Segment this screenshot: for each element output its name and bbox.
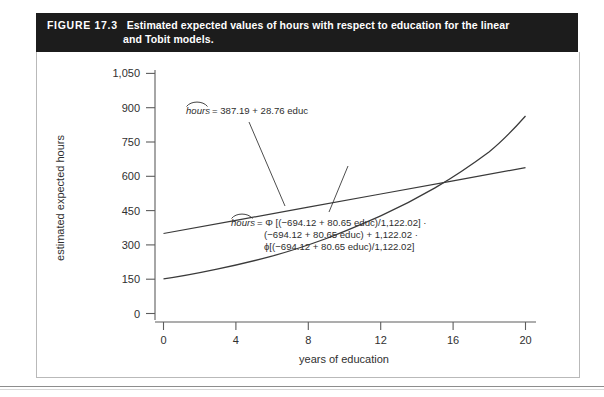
x-tick-label-12: 12 (375, 334, 387, 346)
y-tick-label-150: 150 (122, 273, 140, 285)
y-axis-ticks (146, 73, 155, 313)
figure-container: FIGURE 17.3Estimated expected values of … (0, 0, 604, 397)
x-axis-tick-labels: 0 4 8 12 16 20 (160, 334, 531, 346)
x-tick-label-20: 20 (519, 334, 531, 346)
x-tick-label-0: 0 (160, 334, 166, 346)
y-tick-label-900: 900 (122, 102, 140, 114)
figure-title-line-1: Estimated expected values of hours with … (127, 19, 510, 31)
chart-plot-area: 1,050 900 750 600 450 300 150 0 0 4 8 12… (36, 52, 580, 378)
linear-equation-lhs-text: hours (186, 105, 210, 116)
tobit-equation-line-1: = Φ [(−694.12 + 80.65 educ)/1,122.02] · (257, 217, 427, 228)
y-tick-label-450: 450 (122, 205, 140, 217)
figure-header-bar: FIGURE 17.3Estimated expected values of … (36, 13, 578, 52)
tobit-equation-line-3: ϕ[(−694.12 + 80.65 educ)/1,122.02] (264, 241, 414, 252)
y-tick-label-1050: 1,050 (112, 67, 140, 79)
linear-equation-rhs: = 387.19 + 28.76 educ (212, 105, 308, 116)
linear-equation-annotation: hours = 387.19 + 28.76 educ (186, 102, 308, 116)
tobit-model-curve (164, 116, 526, 279)
x-axis-ticks (164, 322, 526, 330)
tobit-equation-line-2: (−694.12 + 80.65 educ) + 1,122.02 · (264, 229, 418, 240)
figure-bottom-rule (0, 386, 604, 387)
y-axis-title: estimated expected hours (54, 135, 66, 261)
x-tick-label-8: 8 (305, 334, 311, 346)
linear-equation-leader-line (249, 122, 285, 206)
figure-title-line-2: and Tobit models. (47, 32, 568, 46)
linear-equation-rhs-text: = 387.19 + 28.76 educ (212, 105, 308, 116)
x-tick-label-4: 4 (233, 334, 239, 346)
x-axis-title: years of education (299, 353, 389, 365)
figure-number-label: FIGURE 17.3 (47, 19, 118, 31)
tobit-equation-lhs-text: hours (231, 217, 255, 228)
y-tick-label-300: 300 (122, 239, 140, 251)
x-tick-label-16: 16 (447, 334, 459, 346)
tobit-equation-annotation: hours = Φ [(−694.12 + 80.65 educ)/1,122.… (231, 214, 427, 252)
tobit-equation-leader-line (329, 166, 348, 212)
y-axis-tick-labels: 1,050 900 750 600 450 300 150 0 (112, 67, 140, 319)
y-tick-label-0: 0 (134, 308, 140, 320)
y-tick-label-750: 750 (122, 136, 140, 148)
linear-equation-lhs: hours (186, 105, 210, 116)
figure-bottom-rule-secondary (0, 389, 604, 390)
tobit-equation-lhs: hours (231, 217, 255, 228)
figure-header-line-1: FIGURE 17.3Estimated expected values of … (47, 18, 568, 32)
y-tick-label-600: 600 (122, 170, 140, 182)
